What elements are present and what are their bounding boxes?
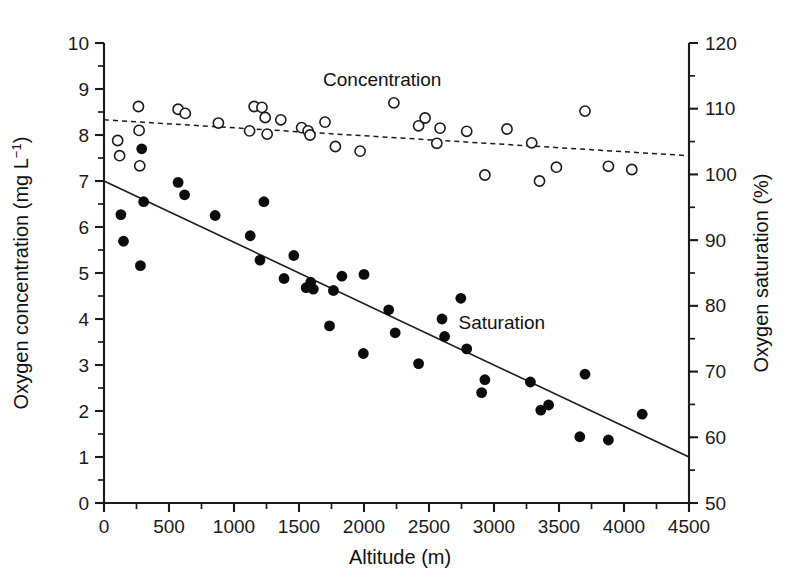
x-axis-title: Altitude (m) <box>349 546 451 568</box>
oxygen-altitude-scatter-plot: 012345678910 5060708090100110120 0500100… <box>0 0 793 580</box>
right-tick-label: 70 <box>705 361 726 382</box>
x-tick-label: 500 <box>153 516 185 537</box>
saturation-point <box>138 196 149 207</box>
saturation-point <box>328 285 339 296</box>
concentration-point <box>527 138 537 148</box>
y-axis-title-right: Oxygen saturation (%) <box>750 174 772 373</box>
concentration-point <box>389 98 399 108</box>
x-tick-label: 2000 <box>343 516 385 537</box>
left-tick-label: 9 <box>78 79 89 100</box>
annotation-saturation: Saturation <box>458 312 545 333</box>
left-tick-label: 1 <box>78 447 89 468</box>
saturation-point <box>390 327 401 338</box>
x-tick-label: 0 <box>99 516 110 537</box>
left-tick-label: 2 <box>78 401 89 422</box>
concentration-point <box>113 135 123 145</box>
saturation-point <box>288 250 299 261</box>
saturation-point <box>480 374 491 385</box>
left-tick-label: 8 <box>78 125 89 146</box>
concentration-point <box>115 151 125 161</box>
concentration-point <box>257 102 267 112</box>
saturation-point <box>358 348 369 359</box>
concentration-point <box>603 161 613 171</box>
concentration-point <box>260 112 270 122</box>
concentration-point <box>627 164 637 174</box>
saturation-point <box>210 210 221 221</box>
saturation-point <box>413 358 424 369</box>
x-tick-label: 4500 <box>668 516 710 537</box>
concentration-point <box>135 161 145 171</box>
concentration-point <box>133 101 143 111</box>
left-tick-label: 5 <box>78 263 89 284</box>
saturation-point <box>359 269 370 280</box>
concentration-point <box>320 117 330 127</box>
concentration-point <box>462 126 472 136</box>
saturation-point <box>136 143 147 154</box>
concentration-point <box>262 129 272 139</box>
saturation-point <box>637 409 648 420</box>
x-tick-label: 3000 <box>473 516 515 537</box>
saturation-point <box>337 271 348 282</box>
saturation-point <box>455 293 466 304</box>
saturation-point <box>525 377 536 388</box>
concentration-point <box>305 130 315 140</box>
saturation-point <box>173 177 184 188</box>
saturation-point <box>245 230 256 241</box>
saturation-point <box>574 431 585 442</box>
left-tick-label: 3 <box>78 355 89 376</box>
y-axis-title-left: Oxygen concentration (mg L−1) <box>9 137 32 410</box>
concentration-point <box>355 146 365 156</box>
concentration-point <box>276 115 286 125</box>
concentration-point <box>180 108 190 118</box>
left-tick-label: 10 <box>68 33 89 54</box>
chart-figure: 012345678910 5060708090100110120 0500100… <box>0 0 793 580</box>
saturation-point <box>308 284 319 295</box>
concentration-point <box>551 162 561 172</box>
concentration-point <box>435 123 445 133</box>
saturation-point <box>116 209 127 220</box>
x-tick-label: 1500 <box>278 516 320 537</box>
saturation-point <box>255 255 266 266</box>
saturation-point <box>476 387 487 398</box>
concentration-point <box>534 176 544 186</box>
right-tick-label: 90 <box>705 230 726 251</box>
concentration-point <box>213 118 223 128</box>
annotation-concentration: Concentration <box>323 69 441 90</box>
concentration-point <box>480 170 490 180</box>
x-tick-label: 4000 <box>603 516 645 537</box>
saturation-point <box>543 400 554 411</box>
x-tick-label: 2500 <box>408 516 450 537</box>
saturation-point <box>383 304 394 315</box>
concentration-point <box>245 126 255 136</box>
saturation-point <box>324 321 335 332</box>
x-tick-label: 1000 <box>213 516 255 537</box>
left-tick-label: 4 <box>78 309 89 330</box>
right-tick-label: 110 <box>705 98 735 119</box>
concentration-point <box>134 125 144 135</box>
saturation-point <box>461 344 472 355</box>
saturation-point <box>279 273 290 284</box>
right-tick-label: 60 <box>705 427 726 448</box>
right-tick-label: 100 <box>705 164 737 185</box>
saturation-point <box>439 331 450 342</box>
left-tick-label: 0 <box>78 493 89 514</box>
saturation-point <box>259 196 270 207</box>
right-tick-label: 50 <box>705 493 726 514</box>
left-tick-label: 6 <box>78 217 89 238</box>
saturation-point <box>179 189 190 200</box>
concentration-point <box>420 113 430 123</box>
concentration-point <box>502 124 512 134</box>
concentration-point <box>580 106 590 116</box>
concentration-point <box>432 138 442 148</box>
right-tick-label: 120 <box>705 33 737 54</box>
saturation-point <box>437 314 448 325</box>
concentration-point <box>330 141 340 151</box>
left-tick-label: 7 <box>78 171 89 192</box>
saturation-point <box>135 260 146 271</box>
x-tick-label: 3500 <box>538 516 580 537</box>
saturation-point <box>118 236 129 247</box>
right-tick-label: 80 <box>705 295 726 316</box>
saturation-point <box>580 369 591 380</box>
saturation-point <box>603 435 614 446</box>
